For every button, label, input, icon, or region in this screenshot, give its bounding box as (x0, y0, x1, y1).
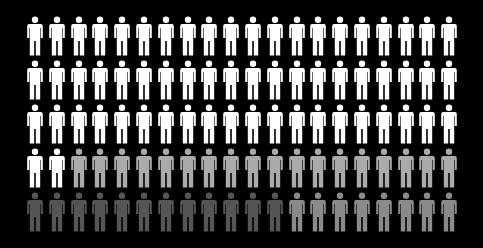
person-icon (331, 104, 349, 144)
person-icon (113, 104, 131, 144)
person-icon (48, 104, 66, 144)
person-icon (222, 192, 240, 232)
person-icon (353, 16, 371, 56)
person-icon (200, 60, 218, 100)
person-icon (157, 104, 175, 144)
person-icon (200, 192, 218, 232)
person-icon (353, 60, 371, 100)
person-icon (113, 148, 131, 188)
person-icon (200, 148, 218, 188)
person-icon (70, 16, 88, 56)
person-icon (309, 60, 327, 100)
person-icon (266, 148, 284, 188)
person-icon (309, 104, 327, 144)
person-icon (353, 148, 371, 188)
person-icon (288, 192, 306, 232)
person-icon (135, 192, 153, 232)
person-icon (48, 192, 66, 232)
person-icon (113, 60, 131, 100)
person-icon (179, 148, 197, 188)
person-icon (397, 16, 415, 56)
person-icon (331, 60, 349, 100)
person-icon (309, 16, 327, 56)
person-icon (353, 104, 371, 144)
person-icon (397, 192, 415, 232)
person-icon (70, 104, 88, 144)
person-icon (113, 192, 131, 232)
person-icon (222, 16, 240, 56)
person-icon (157, 16, 175, 56)
person-icon (331, 16, 349, 56)
person-icon (26, 192, 44, 232)
person-icon (157, 60, 175, 100)
person-icon (26, 60, 44, 100)
person-icon (244, 60, 262, 100)
person-icon (91, 60, 109, 100)
person-icon (266, 60, 284, 100)
person-icon (157, 192, 175, 232)
person-icon (375, 104, 393, 144)
person-icon (200, 16, 218, 56)
person-icon (91, 104, 109, 144)
person-icon (135, 60, 153, 100)
person-icon (222, 104, 240, 144)
person-icon (222, 60, 240, 100)
person-icon (288, 60, 306, 100)
person-icon (26, 16, 44, 56)
person-icon (288, 104, 306, 144)
person-icon (375, 148, 393, 188)
person-icon (418, 104, 436, 144)
person-icon (309, 148, 327, 188)
person-icon (266, 192, 284, 232)
person-icon (70, 60, 88, 100)
person-icon (244, 148, 262, 188)
person-icon (397, 148, 415, 188)
person-icon (179, 60, 197, 100)
person-icon (135, 148, 153, 188)
person-icon (418, 16, 436, 56)
person-icon (200, 104, 218, 144)
person-icon (331, 192, 349, 232)
person-icon (266, 104, 284, 144)
person-icon (309, 192, 327, 232)
person-icon (440, 104, 458, 144)
person-icon (331, 148, 349, 188)
person-icon (418, 192, 436, 232)
person-icon (244, 16, 262, 56)
person-icon (179, 104, 197, 144)
person-icon (222, 148, 240, 188)
person-icon (288, 16, 306, 56)
person-icon (244, 192, 262, 232)
person-icon (157, 148, 175, 188)
person-icon (440, 16, 458, 56)
person-icon (375, 60, 393, 100)
person-icon (48, 16, 66, 56)
person-icon (244, 104, 262, 144)
person-icon (353, 192, 371, 232)
person-icon (179, 192, 197, 232)
person-icon (375, 192, 393, 232)
person-icon (135, 16, 153, 56)
person-icon (91, 192, 109, 232)
pictogram-chart (0, 0, 483, 248)
person-icon (113, 16, 131, 56)
person-icon (135, 104, 153, 144)
person-icon (179, 16, 197, 56)
person-icon (26, 148, 44, 188)
person-icon (440, 148, 458, 188)
person-icon (375, 16, 393, 56)
person-icon (91, 16, 109, 56)
person-icon (266, 16, 284, 56)
person-icon (418, 148, 436, 188)
person-icon (48, 60, 66, 100)
person-icon (288, 148, 306, 188)
person-icon (418, 60, 436, 100)
person-icon (70, 148, 88, 188)
person-icon (397, 104, 415, 144)
person-icon (440, 192, 458, 232)
person-icon (440, 60, 458, 100)
person-icon (91, 148, 109, 188)
person-icon (70, 192, 88, 232)
person-icon (397, 60, 415, 100)
person-icon (26, 104, 44, 144)
